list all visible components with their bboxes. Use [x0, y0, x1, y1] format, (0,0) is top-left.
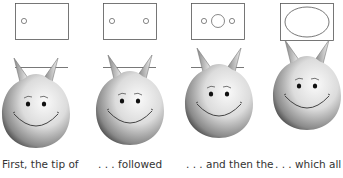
stage-2-panel: . . . followed	[88, 0, 178, 178]
large-ellipse	[285, 7, 329, 37]
small-circle	[21, 18, 26, 23]
stage-1-illustration	[0, 0, 90, 158]
opening-box	[281, 4, 334, 41]
creature-icon	[185, 48, 253, 138]
small-circle	[109, 18, 114, 23]
creature-icon	[96, 55, 164, 145]
opening-box	[16, 4, 69, 40]
stage-3-illustration	[176, 0, 266, 158]
stage-4-illustration	[263, 0, 343, 158]
creature-icon	[273, 40, 341, 130]
stage-1-caption: First, the tip of	[2, 158, 79, 170]
opening-box	[192, 4, 245, 40]
stage-2-caption: . . . followed	[98, 158, 162, 170]
stage-4-panel: . . . which all	[263, 0, 343, 178]
stage-1-panel: First, the tip of	[0, 0, 90, 178]
stage-4-caption: . . . which all	[275, 158, 341, 170]
stage-2-illustration	[88, 0, 178, 158]
creature-icon	[2, 58, 70, 148]
small-circle	[229, 18, 234, 23]
small-circle	[143, 18, 148, 23]
small-circle	[201, 18, 206, 23]
large-circle	[212, 15, 225, 28]
stage-3-panel: . . . and then the	[176, 0, 266, 178]
stage-3-caption: . . . and then the	[186, 158, 274, 170]
